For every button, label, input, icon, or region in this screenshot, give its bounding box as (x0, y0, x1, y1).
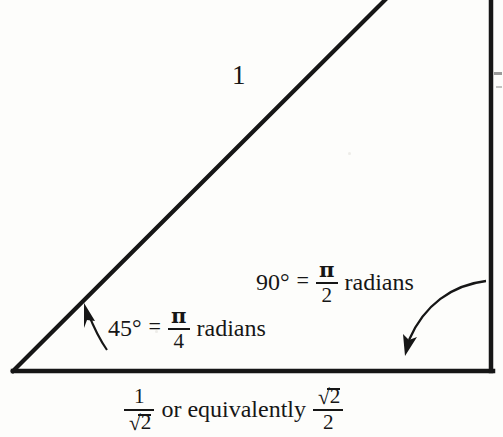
right-angle-degrees: 90° (256, 270, 290, 294)
base-fraction-numerator: 1 (131, 386, 148, 408)
acute-angle-fraction-numerator: π (168, 305, 189, 327)
right-angle-arrow (403, 281, 486, 356)
right-angle-fraction: π 2 (316, 259, 337, 306)
acute-angle-arrow (84, 303, 107, 350)
hypotenuse-length-value: 1 (232, 60, 246, 90)
base-fraction2-numerator: √2 (313, 386, 343, 408)
right-angle-equals-sign: = (297, 270, 309, 292)
right-angle-annotation: 90° = π 2 radians (256, 258, 414, 305)
base-fraction2-denominator: 2 (320, 412, 337, 434)
radical-overbar-icon (138, 414, 151, 416)
acute-angle-unit: radians (197, 316, 266, 340)
right-angle-fraction-numerator: π (316, 259, 337, 281)
page-edge-mark (496, 86, 502, 88)
acute-angle-fraction-denominator: 4 (171, 331, 188, 353)
right-angle-unit: radians (345, 270, 414, 294)
base-fraction-sqrt-two-over-two: √2 2 (313, 386, 343, 434)
base-label-connector: or equivalently (161, 397, 306, 421)
base-fraction-denominator: √2 (124, 412, 154, 434)
sqrt-two-denominator: √2 (127, 412, 151, 434)
acute-angle-fraction: π 4 (168, 305, 189, 352)
acute-angle-annotation: 45° = π 4 radians (108, 304, 266, 351)
triangle-geometry (0, 0, 503, 437)
sqrt-two-numerator: √2 (316, 386, 340, 408)
right-angle-fraction-denominator: 2 (319, 285, 336, 307)
triangle-figure: 1 90° = π 2 radians 45° = π 4 radians (0, 0, 503, 437)
acute-angle-equals-sign: = (149, 316, 161, 338)
base-fraction-one-over-sqrt-two: 1 √2 (124, 386, 154, 434)
hypotenuse-length-label: 1 (232, 62, 246, 89)
page-edge-mark (494, 72, 502, 75)
radical-overbar-icon (327, 388, 340, 390)
acute-angle-degrees: 45° (108, 316, 142, 340)
paper-speck (348, 152, 351, 155)
base-length-label: 1 √2 or equivalently √2 (124, 382, 343, 433)
